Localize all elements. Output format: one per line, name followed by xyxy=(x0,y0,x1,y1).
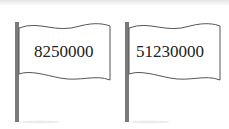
flag-1: 8250000 xyxy=(0,0,115,129)
flag-icon xyxy=(0,0,115,129)
flag-value: 51230000 xyxy=(136,42,204,62)
flag-2: 51230000 xyxy=(114,0,229,129)
flag-icon xyxy=(114,0,229,129)
flag-value: 8250000 xyxy=(34,42,94,62)
